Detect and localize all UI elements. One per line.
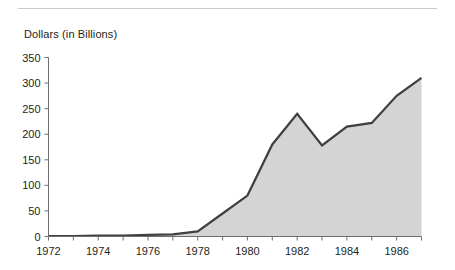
chart-figure: Dollars (in Billions) 050100150200250300… <box>0 0 455 270</box>
y-tick-label: 50 <box>28 205 40 217</box>
x-tick-label: 1976 <box>136 245 160 257</box>
y-axis-ticks <box>45 58 49 237</box>
y-tick-label: 350 <box>22 52 40 64</box>
y-tick-label: 300 <box>22 77 40 89</box>
x-tick-label: 1974 <box>86 245 110 257</box>
area-fill <box>49 78 422 237</box>
x-tick-label: 1982 <box>285 245 309 257</box>
y-tick-label: 150 <box>22 154 40 166</box>
plot-area: 050100150200250300350 197219741976197819… <box>0 0 455 270</box>
y-tick-label: 200 <box>22 128 40 140</box>
x-tick-label: 1986 <box>384 245 408 257</box>
x-tick-label: 1972 <box>36 245 60 257</box>
y-axis-tick-labels: 050100150200250300350 <box>22 52 40 243</box>
y-tick-label: 250 <box>22 103 40 115</box>
x-axis-tick-labels: 19721974197619781980198219841986 <box>36 245 409 257</box>
x-tick-label: 1984 <box>335 245 359 257</box>
x-axis-ticks <box>49 237 422 241</box>
x-tick-label: 1978 <box>185 245 209 257</box>
x-tick-label: 1980 <box>235 245 259 257</box>
y-tick-label: 100 <box>22 179 40 191</box>
y-tick-label: 0 <box>34 231 40 243</box>
